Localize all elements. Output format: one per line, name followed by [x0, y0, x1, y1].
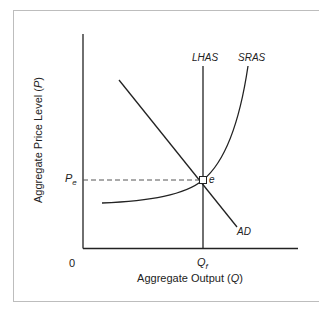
x-axis-label: Aggregate Output (Q)	[137, 272, 243, 284]
ad-label: AD	[237, 226, 251, 237]
origin-label: 0	[69, 257, 75, 269]
ad-curve	[119, 80, 237, 227]
y-axis-label: Aggregate Price Level (P)	[32, 77, 44, 203]
pe-tick-label: Pe	[65, 172, 77, 187]
lhas-label: LHAS	[192, 52, 218, 63]
sras-label: SRAS	[238, 52, 265, 63]
ad-as-diagram	[0, 0, 319, 313]
equilibrium-marker	[200, 177, 207, 184]
qf-tick-label: Qf	[197, 256, 208, 271]
equilibrium-label: e	[209, 174, 215, 185]
